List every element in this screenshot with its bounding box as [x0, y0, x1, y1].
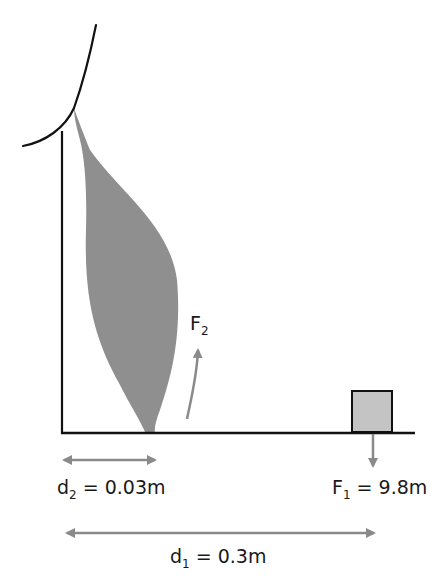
load-box [352, 391, 392, 432]
upper-arm-outline [23, 25, 96, 146]
label-f1: F1 = 9.8m [332, 476, 427, 502]
force-arrow-f2 [187, 350, 198, 419]
label-f2: F2 [190, 312, 209, 338]
label-d2: d2 = 0.03m [57, 476, 166, 502]
lever-diagram: F2 F1 = 9.8m d2 = 0.03m d1 = 0.3m [0, 0, 440, 586]
label-d1: d1 = 0.3m [170, 545, 266, 571]
biceps-muscle [74, 108, 178, 434]
